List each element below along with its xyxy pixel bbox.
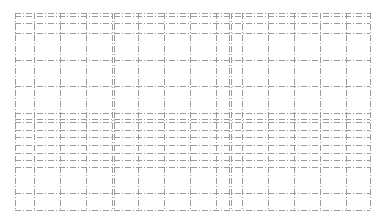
horizontal-grid-lines bbox=[15, 14, 370, 211]
dashed-grid bbox=[0, 0, 384, 222]
vertical-grid-lines bbox=[16, 13, 371, 210]
